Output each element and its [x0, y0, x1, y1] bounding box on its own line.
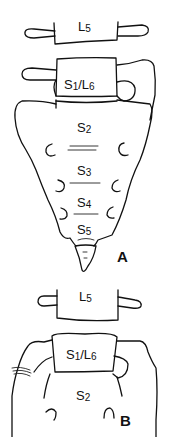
label-s2-b: S2 — [76, 388, 91, 403]
panel-a: L5 S1/L6 — [15, 19, 155, 271]
label-s3-a: S3 — [77, 163, 92, 178]
panel-b-sacrum: S2 — [44, 374, 122, 420]
panel-b: L5 S1/L6 S2 B — [12, 289, 157, 437]
sacrum-diagram: L5 S1/L6 — [0, 0, 171, 437]
panel-a-l5-vertebra: L5 — [25, 19, 148, 44]
label-l5-b: L5 — [79, 289, 92, 304]
label-l5-a: L5 — [78, 19, 91, 34]
panel-b-s1-l6-vertebra: S1/L6 — [12, 333, 157, 437]
label-s1-l6-b: S1/L6 — [66, 347, 97, 362]
label-s5-a: S5 — [77, 222, 92, 237]
label-s2-a: S2 — [77, 120, 92, 135]
label-s4-a: S4 — [77, 195, 92, 210]
panel-label-b: B — [120, 412, 131, 429]
label-s1-l6-a: S1/L6 — [64, 77, 95, 92]
panel-b-l5-vertebra: L5 — [38, 289, 141, 321]
panel-a-s1-l6-vertebra: S1/L6 — [22, 58, 155, 120]
panel-label-a: A — [117, 248, 128, 265]
